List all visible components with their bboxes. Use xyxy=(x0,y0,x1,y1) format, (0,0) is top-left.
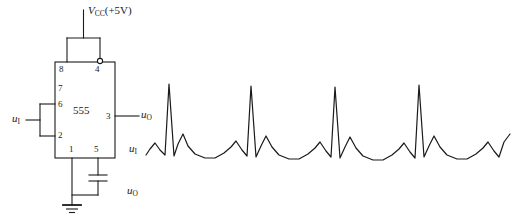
vcc-subscript: CC xyxy=(95,9,105,18)
vcc-value: (+5V) xyxy=(105,4,132,16)
pin-number-3: 3 xyxy=(106,112,111,121)
pin4-bubble-icon xyxy=(97,58,102,63)
pin-number-4: 4 xyxy=(95,65,100,74)
pin-number-6: 6 xyxy=(58,100,63,109)
waveform-output-label: uO xyxy=(127,185,138,197)
input-waveform-trace xyxy=(146,84,510,160)
waveform-input-subscript: I xyxy=(135,147,138,156)
chip-name-label: 555 xyxy=(73,105,90,116)
output-signal-label: uO xyxy=(141,109,152,121)
pin-number-7: 7 xyxy=(58,84,63,93)
pin-number-8: 8 xyxy=(59,65,64,74)
input-signal-label: uI xyxy=(12,113,20,125)
vcc-symbol: V xyxy=(88,4,95,16)
output-signal-subscript: O xyxy=(147,113,152,122)
figure-canvas: VCC(+5V) 555 8 4 7 6 2 3 1 5 uI uO uI uO xyxy=(0,0,520,221)
waveform-output-subscript: O xyxy=(133,189,138,198)
pin-number-2: 2 xyxy=(58,131,63,140)
pin-number-1: 1 xyxy=(69,145,74,154)
waveform-input-label: uI xyxy=(129,143,137,155)
vcc-supply-label: VCC(+5V) xyxy=(88,5,132,17)
pin-number-5: 5 xyxy=(94,145,99,154)
input-signal-subscript: I xyxy=(18,117,21,126)
